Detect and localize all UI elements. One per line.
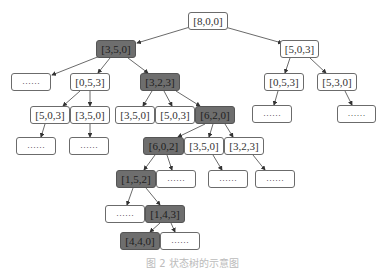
tree-node-ellipsis: ……	[208, 170, 248, 188]
figure-caption: 图 2 状态树的示意图	[0, 255, 385, 270]
tree-node: [5,0,3]	[280, 40, 319, 58]
tree-node-highlighted: [3,2,3]	[140, 73, 180, 91]
tree-node-ellipsis: ……	[255, 170, 295, 188]
tree-node-ellipsis: ……	[105, 205, 145, 223]
tree-node-ellipsis: ……	[16, 137, 56, 155]
tree-node: [5,0,3]	[155, 106, 195, 124]
tree-node-highlighted: [4,4,0]	[120, 232, 160, 250]
tree-node-highlighted: [3,5,0]	[96, 40, 136, 58]
tree-node-ellipsis: ……	[69, 137, 109, 155]
tree-node: [3,2,3]	[224, 137, 264, 155]
tree-node: [3,5,0]	[184, 137, 224, 155]
tree-node: [5,3,0]	[317, 73, 357, 91]
tree-node: [0,5,3]	[70, 73, 110, 91]
tree-node: [3,5,0]	[115, 106, 155, 124]
tree-node-highlighted: [1,5,2]	[116, 170, 156, 188]
tree-node-ellipsis: ……	[11, 73, 51, 91]
tree-node-highlighted: [6,2,0]	[195, 106, 235, 124]
tree-node: [3,5,0]	[70, 106, 110, 124]
tree-node-ellipsis: ……	[252, 105, 292, 123]
tree-node-ellipsis: ……	[337, 105, 376, 123]
tree-node-highlighted: [1,4,3]	[145, 205, 185, 223]
tree-node: [0,5,3]	[264, 73, 304, 91]
tree-node: [5,0,3]	[30, 106, 70, 124]
tree-node-highlighted: [6,0,2]	[143, 137, 184, 155]
tree-node-ellipsis: ……	[156, 170, 196, 188]
tree-node-root: [8,0,0]	[188, 12, 228, 30]
tree-node-ellipsis: ……	[160, 232, 200, 250]
